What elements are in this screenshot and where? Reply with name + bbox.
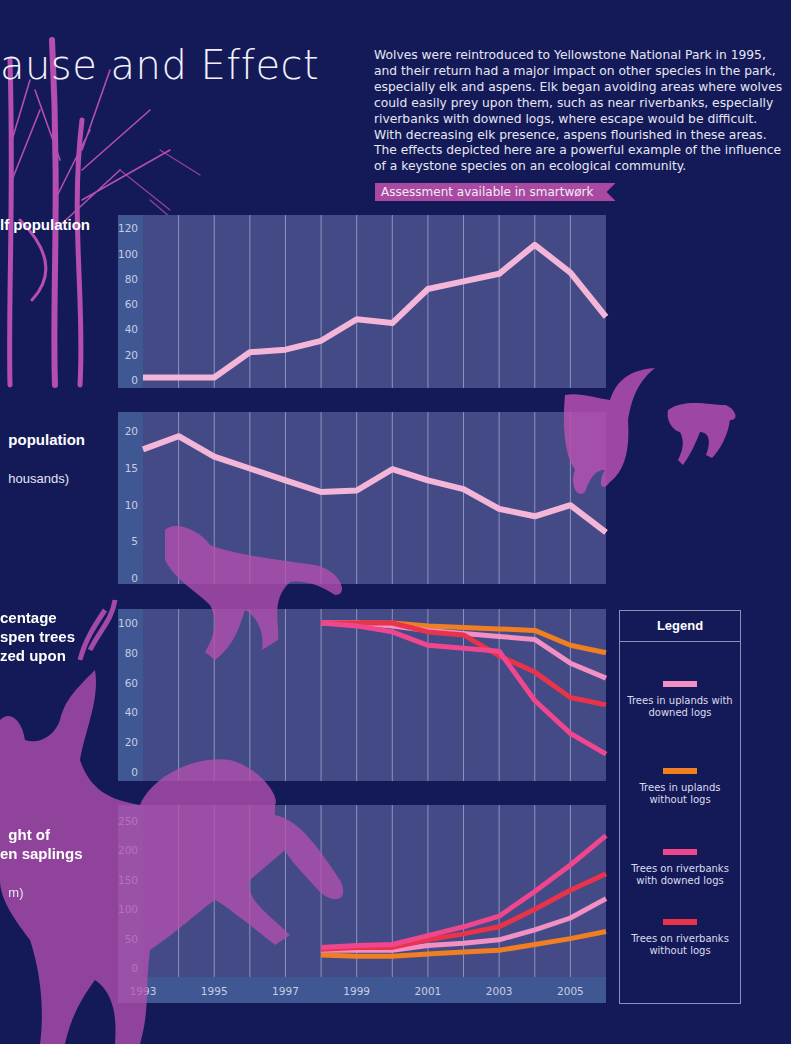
- svg-text:2003: 2003: [486, 985, 513, 997]
- legend-item-label: Trees on riverbanks with downed logs: [631, 863, 729, 886]
- legend-title: Legend: [620, 611, 740, 642]
- svg-text:40: 40: [125, 706, 138, 718]
- svg-text:20: 20: [125, 349, 138, 361]
- svg-text:1999: 1999: [343, 985, 370, 997]
- elk-population-label: population housands): [0, 411, 85, 488]
- svg-text:80: 80: [125, 647, 138, 659]
- intro-paragraph: Wolves were reintroduced to Yellowstone …: [374, 48, 784, 175]
- svg-text:0: 0: [131, 572, 138, 584]
- legend-swatch: [663, 849, 697, 855]
- legend-item: Trees in uplands with downed logs: [620, 681, 740, 719]
- svg-text:5: 5: [131, 535, 138, 547]
- svg-text:60: 60: [125, 677, 138, 689]
- svg-text:100: 100: [118, 617, 138, 629]
- legend-swatch: [663, 919, 697, 925]
- svg-text:40: 40: [125, 323, 138, 335]
- svg-text:10: 10: [125, 499, 138, 511]
- wolf-population-label: lf population: [0, 215, 90, 234]
- svg-text:100: 100: [118, 248, 138, 260]
- svg-text:20: 20: [125, 425, 138, 437]
- grazing-chart: 020406080100: [118, 609, 606, 781]
- wolf-chart: 020406080100120: [118, 215, 606, 388]
- svg-text:15: 15: [125, 462, 138, 474]
- svg-text:60: 60: [125, 298, 138, 310]
- sapling-height-title: ght of en saplings: [0, 826, 83, 862]
- legend-item: Trees on riverbanks without logs: [620, 919, 740, 957]
- legend-item: Trees on riverbanks with downed logs: [620, 849, 740, 887]
- svg-text:1995: 1995: [201, 985, 228, 997]
- legend-item: Trees in uplands without logs: [620, 768, 740, 806]
- assessment-banner-link[interactable]: Assessment available in smartwørk: [375, 183, 616, 201]
- legend: Legend Trees in uplands with downed logs…: [619, 610, 741, 1004]
- svg-text:80: 80: [125, 273, 138, 285]
- legend-item-label: Trees in uplands with downed logs: [627, 695, 732, 718]
- legend-item-label: Trees on riverbanks without logs: [631, 933, 729, 956]
- sapling-height-unit: m): [8, 885, 23, 900]
- svg-text:20: 20: [125, 736, 138, 748]
- page-title: ause and Effect: [0, 42, 319, 88]
- legend-item-label: Trees in uplands without logs: [639, 782, 720, 805]
- elk-population-title: population: [8, 431, 85, 448]
- elk-population-unit: housands): [8, 471, 69, 486]
- legend-swatch: [663, 768, 697, 774]
- svg-text:120: 120: [118, 222, 138, 234]
- svg-text:0: 0: [131, 374, 138, 386]
- svg-text:1997: 1997: [272, 985, 299, 997]
- legend-swatch: [663, 681, 697, 687]
- svg-text:2001: 2001: [415, 985, 442, 997]
- svg-text:2005: 2005: [557, 985, 584, 997]
- svg-text:0: 0: [131, 766, 138, 778]
- grazed-percentage-label: centage spen trees zed upon: [0, 608, 75, 665]
- sapling-height-label: ght of en saplings m): [0, 806, 83, 902]
